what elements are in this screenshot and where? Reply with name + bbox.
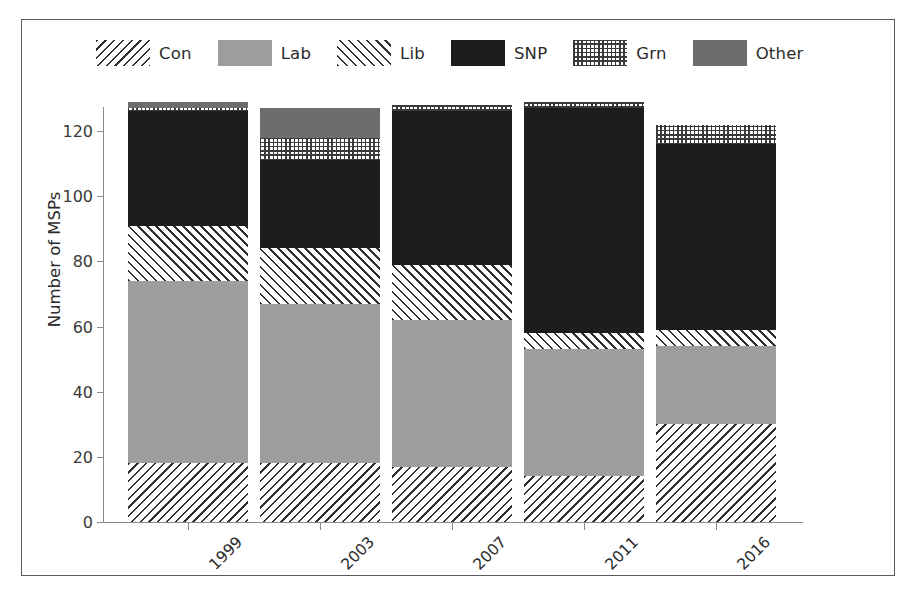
bar-segment-2003-lab[interactable] — [260, 304, 380, 464]
bar-segment-2011-lib[interactable] — [524, 333, 644, 349]
bar-segment-2007-con[interactable] — [392, 467, 512, 522]
x-tick-label-2007: 2007 — [470, 533, 511, 574]
bar-segment-2016-grn[interactable] — [656, 125, 776, 145]
bar-segment-2011-con[interactable] — [524, 476, 644, 522]
bar-segment-2016-lib[interactable] — [656, 330, 776, 346]
bar-2016[interactable] — [656, 124, 776, 522]
bar-segment-1999-lab[interactable] — [128, 281, 248, 463]
bar-segment-2003-con[interactable] — [260, 463, 380, 522]
bar-segment-2016-con[interactable] — [656, 424, 776, 522]
y-tick-mark-40 — [97, 392, 104, 393]
x-tick-mark-1999 — [188, 523, 189, 530]
bar-1999[interactable] — [128, 102, 248, 522]
plot-area: Number of MSPs 120100806040200 199920032… — [0, 0, 915, 597]
x-tick-label-2016: 2016 — [734, 533, 775, 574]
y-tick-mark-120 — [97, 131, 104, 132]
bar-segment-2011-lab[interactable] — [524, 349, 644, 476]
x-tick-label-2003: 2003 — [338, 533, 379, 574]
bar-segment-2003-other[interactable] — [260, 108, 380, 137]
y-tick-mark-60 — [97, 327, 104, 328]
bar-segment-2007-snp[interactable] — [392, 111, 512, 264]
x-tick-label-1999: 1999 — [206, 533, 247, 574]
y-tick-label-120: 120 — [49, 122, 93, 141]
bar-2007[interactable] — [392, 105, 512, 522]
x-tick-mark-2007 — [452, 523, 453, 530]
bar-segment-2016-lab[interactable] — [656, 346, 776, 424]
bar-segment-2003-lib[interactable] — [260, 248, 380, 303]
bar-2011[interactable] — [524, 102, 644, 522]
y-axis-line — [103, 107, 104, 523]
y-tick-label-80: 80 — [49, 252, 93, 271]
bar-segment-2007-grn[interactable] — [392, 105, 512, 112]
y-tick-label-0: 0 — [49, 513, 93, 532]
x-tick-mark-2011 — [584, 523, 585, 530]
x-tick-mark-2003 — [320, 523, 321, 530]
bar-segment-1999-con[interactable] — [128, 463, 248, 522]
bar-segment-2011-snp[interactable] — [524, 108, 644, 333]
bar-segment-2003-snp[interactable] — [260, 160, 380, 248]
y-tick-mark-0 — [97, 522, 104, 523]
y-tick-label-20: 20 — [49, 448, 93, 467]
y-tick-mark-20 — [97, 457, 104, 458]
bar-segment-1999-other[interactable] — [128, 102, 248, 109]
bar-segment-2007-lab[interactable] — [392, 320, 512, 467]
bar-segment-2011-grn[interactable] — [524, 102, 644, 109]
x-tick-label-2011: 2011 — [602, 533, 643, 574]
y-tick-mark-100 — [97, 196, 104, 197]
bar-segment-2007-lib[interactable] — [392, 265, 512, 320]
y-tick-label-40: 40 — [49, 383, 93, 402]
bar-segment-2016-snp[interactable] — [656, 144, 776, 330]
bar-segment-1999-grn[interactable] — [128, 108, 248, 111]
bar-2003[interactable] — [260, 108, 380, 522]
bar-segment-1999-lib[interactable] — [128, 226, 248, 281]
bar-segment-2003-grn[interactable] — [260, 138, 380, 161]
bar-segment-1999-snp[interactable] — [128, 111, 248, 225]
y-tick-mark-80 — [97, 261, 104, 262]
x-axis-line — [103, 522, 803, 523]
chart-figure: ConLabLibSNPGrnOther Number of MSPs 1201… — [0, 0, 915, 597]
y-tick-label-60: 60 — [49, 318, 93, 337]
x-tick-mark-2016 — [716, 523, 717, 530]
y-tick-label-100: 100 — [49, 187, 93, 206]
